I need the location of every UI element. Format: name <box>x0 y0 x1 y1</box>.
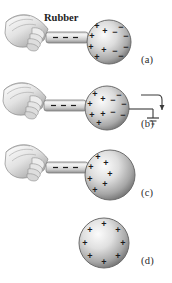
panel-d-artwork: + + + + + + + + <box>0 206 172 283</box>
svg-text:+: + <box>103 158 108 168</box>
svg-text:+: + <box>101 219 106 229</box>
svg-text:+: + <box>88 42 93 52</box>
rubber-rod <box>44 100 86 111</box>
hand-illustration <box>5 15 48 51</box>
svg-text:−: − <box>123 31 128 41</box>
svg-text:+: + <box>115 225 120 235</box>
panel-b: + + + + + + − − − − − <box>0 72 172 136</box>
svg-text:−: − <box>110 107 115 117</box>
svg-text:+: + <box>87 225 92 235</box>
svg-text:+: + <box>96 118 101 128</box>
metal-sphere: + + + + + + − − − − − − <box>87 20 131 64</box>
svg-text:+: + <box>89 110 94 120</box>
svg-text:+: + <box>100 94 105 104</box>
svg-text:+: + <box>95 152 100 162</box>
svg-text:+: + <box>100 109 105 119</box>
panel-label-c: (c) <box>141 187 153 198</box>
panel-a: + + + + + + − − − − − − Rubber (a) <box>0 0 172 72</box>
svg-text:+: + <box>94 21 99 31</box>
svg-text:+: + <box>107 169 112 179</box>
svg-text:+: + <box>87 251 92 261</box>
svg-text:−: − <box>120 110 125 120</box>
svg-text:+: + <box>101 257 106 267</box>
svg-text:+: + <box>120 238 125 248</box>
svg-text:+: + <box>92 89 97 99</box>
metal-sphere: + + + + + + + + <box>79 218 129 268</box>
rubber-rod <box>46 32 88 43</box>
metal-sphere: + + + + + + + <box>85 150 135 200</box>
metal-sphere: + + + + + + − − − − − <box>85 86 129 130</box>
panel-c: + + + + + + + (c) <box>0 136 172 206</box>
svg-text:−: − <box>110 95 115 105</box>
svg-text:+: + <box>82 238 87 248</box>
current-arrow-icon <box>160 105 165 110</box>
svg-text:+: + <box>94 52 99 62</box>
svg-text:+: + <box>102 26 107 36</box>
hand-illustration <box>3 83 46 119</box>
svg-text:−: − <box>118 51 123 61</box>
panel-label-d: (d) <box>141 255 154 266</box>
svg-text:+: + <box>89 31 94 41</box>
svg-text:+: + <box>88 162 93 172</box>
panel-d: + + + + + + + + (d) <box>0 206 172 283</box>
rubber-label: Rubber <box>44 12 78 23</box>
svg-text:−: − <box>123 42 128 52</box>
svg-text:+: + <box>87 99 92 109</box>
svg-text:+: + <box>115 251 120 261</box>
induction-figure: + + + + + + − − − − − − Rubber (a) <box>0 0 172 283</box>
svg-text:−: − <box>112 27 117 37</box>
svg-text:+: + <box>92 185 97 195</box>
svg-text:+: + <box>87 174 92 184</box>
panel-label-b: (b) <box>141 118 154 129</box>
svg-text:+: + <box>101 45 106 55</box>
svg-text:−: − <box>112 46 117 56</box>
svg-text:+: + <box>102 179 107 189</box>
svg-text:−: − <box>121 99 126 109</box>
hand-illustration <box>5 145 48 181</box>
rubber-rod <box>46 162 88 173</box>
panel-label-a: (a) <box>141 54 153 65</box>
